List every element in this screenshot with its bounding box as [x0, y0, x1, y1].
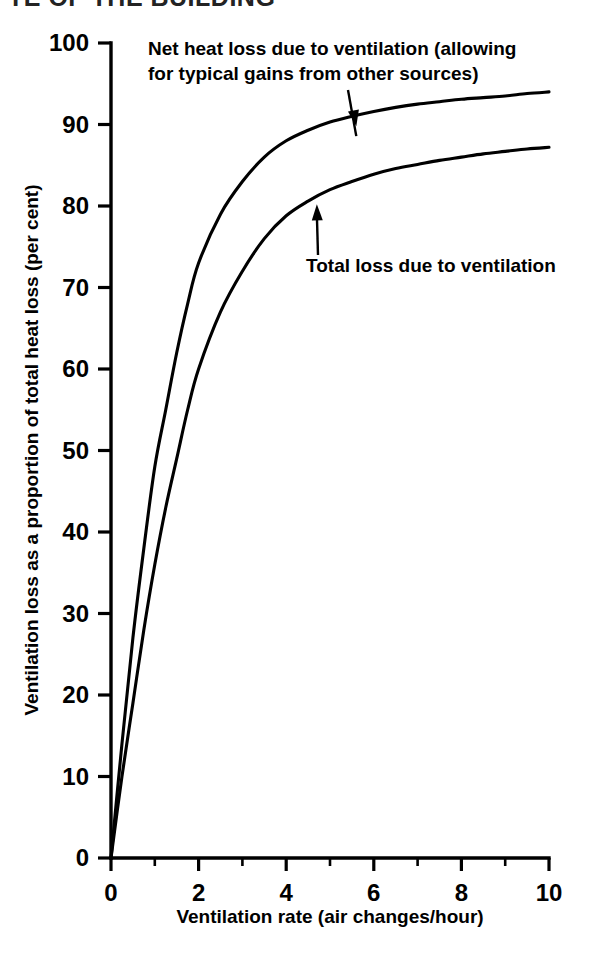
y-axis-tick-label: 0 — [76, 844, 89, 871]
annotation-total-loss-arrowhead — [312, 204, 323, 220]
figure-page: TE OF THE BUILDING 010203040506070809010… — [0, 0, 590, 963]
x-axis-tick-label: 10 — [536, 879, 563, 906]
chart-axes — [111, 43, 549, 858]
y-axis-title: Ventilation loss as a proportion of tota… — [21, 184, 42, 715]
series-line-net-heat-loss — [111, 92, 549, 858]
y-axis-ticks — [98, 43, 111, 858]
y-axis-tick-label: 90 — [62, 111, 89, 138]
chart-series-curves — [111, 92, 549, 858]
x-axis-tick-labels: 0246810 — [104, 879, 562, 906]
chart-axis-titles: Ventilation rate (air changes/hour) Vent… — [21, 184, 484, 927]
annotation-net-heat-loss-line-1: Net heat loss due to ventilation (allowi… — [148, 38, 516, 59]
chart-canvas: 0102030405060708090100 0246810 Net heat … — [0, 0, 590, 963]
annotation-total-loss-line-1: Total loss due to ventilation — [306, 255, 556, 276]
x-axis-tick-label: 0 — [104, 879, 117, 906]
y-axis-tick-labels: 0102030405060708090100 — [49, 29, 89, 871]
y-axis-tick-label: 70 — [62, 274, 89, 301]
annotation-net-heat-loss-line-2: for typical gains from other sources) — [148, 63, 478, 84]
series-line-total-loss — [111, 147, 549, 858]
y-axis-tick-label: 20 — [62, 681, 89, 708]
y-axis-tick-label: 10 — [62, 763, 89, 790]
y-axis-tick-label: 40 — [62, 518, 89, 545]
x-axis-title: Ventilation rate (air changes/hour) — [176, 906, 483, 927]
x-axis-tick-label: 4 — [280, 879, 294, 906]
annotation-total-loss: Total loss due to ventilation — [306, 204, 556, 276]
y-axis-tick-label: 50 — [62, 437, 89, 464]
y-axis-tick-label: 80 — [62, 192, 89, 219]
x-axis-tick-label: 8 — [455, 879, 468, 906]
y-axis-tick-label: 100 — [49, 29, 89, 56]
x-axis-tick-label: 6 — [367, 879, 380, 906]
y-axis-tick-label: 30 — [62, 600, 89, 627]
y-axis-tick-label: 60 — [62, 355, 89, 382]
ventilation-heat-loss-chart: 0102030405060708090100 0246810 Net heat … — [0, 0, 590, 963]
x-axis-tick-label: 2 — [192, 879, 205, 906]
annotation-total-loss-leader — [317, 214, 318, 255]
